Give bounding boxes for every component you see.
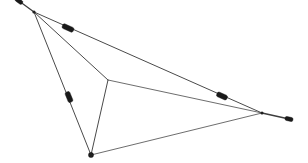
marker-left-edge: [65, 91, 74, 103]
vertex-group: [32, 10, 263, 157]
bottom-vertex-node: [89, 153, 93, 157]
tail-group: [19, 1, 289, 119]
marker-top-left-end: [15, 0, 24, 5]
top-vertex-node: [32, 10, 35, 13]
marker-right-edge: [216, 91, 228, 100]
marker-top-edge: [62, 23, 75, 32]
right-vertex-node: [261, 112, 264, 115]
edge-top-to-junction: [34, 12, 108, 80]
edge-bottom-to-right: [91, 113, 262, 155]
line-drawing-canvas: [0, 0, 308, 163]
marker-group: [15, 0, 294, 158]
edge-group: [34, 12, 262, 155]
line-drawing-svg: [0, 0, 308, 163]
edge-junction-to-bottom: [91, 80, 108, 155]
edge-junction-to-right: [108, 80, 262, 113]
marker-far-right-end: [285, 116, 294, 122]
